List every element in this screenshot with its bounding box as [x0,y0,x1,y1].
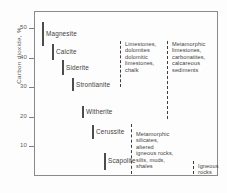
mineral-bar-siderite: Siderite [62,60,64,75]
mineral-label-calcite: Calcite [56,48,77,55]
mineral-label-witherite: Witherite [86,108,113,115]
mineral-bar-magnesite: Magnesite [42,22,44,46]
group-bar-metamorphic-silicates [131,124,132,174]
mineral-bar-cerussite: Cerussite [92,125,94,138]
group-bar-metamorphic-limestones [167,41,168,119]
group-label-igneous: Igneous rocks [198,163,219,176]
y-axis-tick-label-10: 10 [20,142,27,148]
mineral-bar-strontianite: Strontianite [72,78,74,91]
y-axis-tick-label-30: 30 [20,83,27,89]
group-bar-limestones [120,41,121,87]
mineral-label-magnesite: Magnesite [46,30,77,37]
mineral-bar-calcite: Calcite [52,44,54,60]
y-axis-tick-label-40: 40 [20,54,27,60]
group-label-metamorphic-limestones: Metamorphic limestones, carbonatites, ca… [172,41,205,73]
group-label-metamorphic-silicates: Metamorphic silicates, altered igneous r… [136,131,173,169]
mineral-bar-witherite: Witherite [82,106,84,118]
mineral-label-cerussite: Cerussite [96,128,124,135]
mineral-label-strontianite: Strontianite [76,81,110,88]
y-axis-tick-label-50: 50 [20,24,27,30]
group-bar-igneous [193,161,194,174]
mineral-bar-scapolite: Scapolite [104,153,106,169]
mineral-label-siderite: Siderite [66,64,89,71]
carbon-dioxide-range-chart: Carbon dioxide, % 5040302010 MagnesiteCa… [0,0,227,193]
y-axis-tick-label-20: 20 [20,113,27,119]
group-label-limestones: Limestones, dolomites dolomitic limeston… [125,41,156,73]
